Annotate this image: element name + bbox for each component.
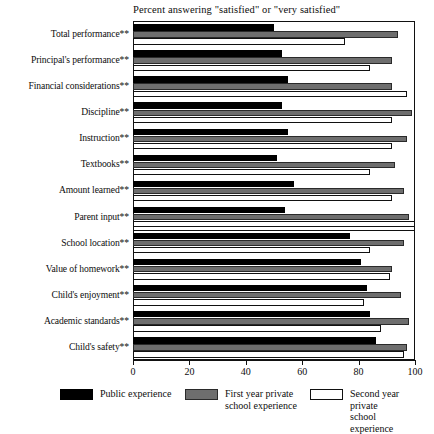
- bar-second: [133, 65, 370, 71]
- bar-first: [133, 57, 392, 63]
- bar-group: [133, 282, 415, 308]
- bar-group: [133, 73, 415, 99]
- category-label: Instruction**: [0, 132, 129, 143]
- bar-public: [133, 207, 285, 213]
- x-tick: [359, 360, 360, 365]
- bar-public: [133, 259, 361, 265]
- bar-second: [133, 247, 370, 253]
- bar-first: [133, 31, 398, 37]
- bar-group: [133, 47, 415, 73]
- legend-swatch-first: [185, 389, 218, 400]
- bar-second: [133, 38, 345, 44]
- x-tick: [415, 360, 416, 365]
- bar-first: [133, 292, 401, 298]
- bar-second: [133, 169, 370, 175]
- x-tick-label: 0: [118, 366, 148, 378]
- chart-category-row: Discipline**: [0, 99, 434, 125]
- chart-category-row: Total performance**: [0, 21, 434, 47]
- bar-second: [133, 221, 415, 227]
- bar-first: [133, 136, 407, 142]
- bar-first: [133, 83, 392, 89]
- bar-group: [133, 177, 415, 203]
- chart-category-row: Parent input**: [0, 204, 434, 230]
- bar-group: [133, 308, 415, 334]
- chart-category-row: Amount learned**: [0, 177, 434, 203]
- bar-public: [133, 311, 370, 317]
- bar-second: [133, 299, 364, 305]
- category-label: School location**: [0, 237, 129, 248]
- bar-group: [133, 256, 415, 282]
- chart-legend: Public experienceFirst year private scho…: [30, 388, 420, 426]
- category-label: Parent input**: [0, 211, 129, 222]
- legend-item: Public experience: [60, 388, 171, 400]
- bar-group: [133, 21, 415, 47]
- x-tick-label: 100: [400, 366, 430, 378]
- category-label: Financial considerations**: [0, 80, 129, 91]
- bar-first: [133, 318, 409, 324]
- bar-public: [133, 129, 288, 135]
- chart-category-row: School location**: [0, 230, 434, 256]
- bar-first: [133, 240, 404, 246]
- chart-category-row: Textbooks**: [0, 151, 434, 177]
- bar-public: [133, 285, 367, 291]
- bar-public: [133, 76, 288, 82]
- bar-public: [133, 102, 282, 108]
- bar-second: [133, 351, 404, 357]
- bar-first: [133, 188, 404, 194]
- bar-group: [133, 230, 415, 256]
- category-label: Value of homework**: [0, 263, 129, 274]
- legend-swatch-second: [310, 389, 343, 400]
- x-tick-label: 40: [231, 366, 261, 378]
- category-label: Child's safety**: [0, 341, 129, 352]
- bar-second: [133, 117, 392, 123]
- category-label: Amount learned**: [0, 184, 129, 195]
- bar-public: [133, 50, 282, 56]
- chart-category-row: Value of homework**: [0, 256, 434, 282]
- bar-second: [133, 143, 392, 149]
- category-label: Discipline**: [0, 106, 129, 117]
- x-tick: [246, 360, 247, 365]
- chart-category-row: Academic standards**: [0, 308, 434, 334]
- category-label: Textbooks**: [0, 158, 129, 169]
- bar-public: [133, 233, 350, 239]
- category-label: Principal's performance**: [0, 54, 129, 65]
- legend-label: Public experience: [100, 388, 171, 400]
- category-label: Child's enjoyment**: [0, 289, 129, 300]
- bar-first: [133, 344, 407, 350]
- bar-group: [133, 99, 415, 125]
- bar-group: [133, 125, 415, 151]
- x-tick-label: 20: [174, 366, 204, 378]
- chart-category-row: Principal's performance**: [0, 47, 434, 73]
- legend-item: Second year private school experience: [310, 388, 420, 434]
- chart-category-row: Financial considerations**: [0, 73, 434, 99]
- legend-swatch-public: [60, 389, 93, 400]
- bar-group: [133, 204, 415, 230]
- bar-first: [133, 214, 409, 220]
- bar-second: [133, 195, 392, 201]
- bar-second: [133, 91, 407, 97]
- bar-first: [133, 266, 392, 272]
- category-label: Academic standards**: [0, 315, 129, 326]
- bar-group: [133, 151, 415, 177]
- bar-public: [133, 181, 294, 187]
- chart-category-row: Child's safety**: [0, 334, 434, 360]
- bar-public: [133, 155, 277, 161]
- x-tick-label: 80: [344, 366, 374, 378]
- x-tick: [302, 360, 303, 365]
- x-tick-label: 60: [287, 366, 317, 378]
- legend-label: Second year private school experience: [350, 388, 420, 434]
- chart-category-row: Instruction**: [0, 125, 434, 151]
- bar-second: [133, 325, 381, 331]
- bar-second: [133, 273, 390, 279]
- bar-group: [133, 334, 415, 360]
- bar-first: [133, 110, 412, 116]
- bar-first: [133, 162, 395, 168]
- x-axis: [133, 360, 415, 361]
- chart-title: Percent answering "satisfied" or "very s…: [133, 4, 433, 16]
- x-tick: [189, 360, 190, 365]
- bar-public: [133, 24, 274, 30]
- chart-category-row: Child's enjoyment**: [0, 282, 434, 308]
- x-tick: [133, 360, 134, 365]
- category-label: Total performance**: [0, 28, 129, 39]
